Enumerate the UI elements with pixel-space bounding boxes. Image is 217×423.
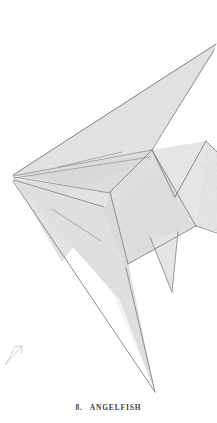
caption-title: ANGELFISH xyxy=(90,403,142,412)
origami-angelfish-figure xyxy=(0,0,217,423)
direction-arrow-mark xyxy=(6,346,22,364)
illustration-plate: 8. ANGELFISH xyxy=(0,0,217,423)
arrow-shaft-icon xyxy=(6,346,22,364)
caption-number: 8. xyxy=(76,403,82,412)
plate-caption: 8. ANGELFISH xyxy=(0,403,217,412)
